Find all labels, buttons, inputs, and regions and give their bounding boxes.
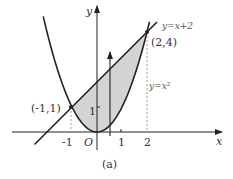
x-axis-label: x [216,135,223,148]
parabola-equation-label: y=x² [148,81,171,91]
x-tick-label-neg1: -1 [62,136,73,149]
y-axis-label: y [85,5,93,18]
line-equation-label: y=x+2 [161,21,193,31]
y-tick-label-1: 1 [89,105,96,118]
point-label-neg1-1: (-1,1) [31,102,61,115]
point-2-4 [145,30,149,34]
x-tick-label-2: 2 [144,136,151,149]
origin-label: O [84,136,93,149]
point-label-2-4: (2,4) [151,36,177,49]
point-neg1-1 [69,105,73,109]
x-tick-label-1: 1 [118,136,125,149]
area-between-curves-diagram: y x O -1 1 2 1 (-1,1) (2,4) y=x+2 y=x² (… [0,0,233,179]
figure-caption: (a) [102,158,117,171]
